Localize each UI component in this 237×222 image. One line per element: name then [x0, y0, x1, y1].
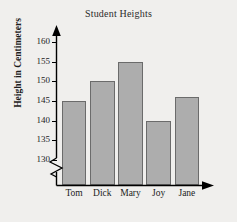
right-arrow-icon: [202, 181, 214, 190]
axes-lines: [0, 0, 237, 222]
up-arrow-icon: [52, 25, 61, 36]
bar-chart: Student Heights Height in Centimeters 13…: [0, 0, 237, 222]
